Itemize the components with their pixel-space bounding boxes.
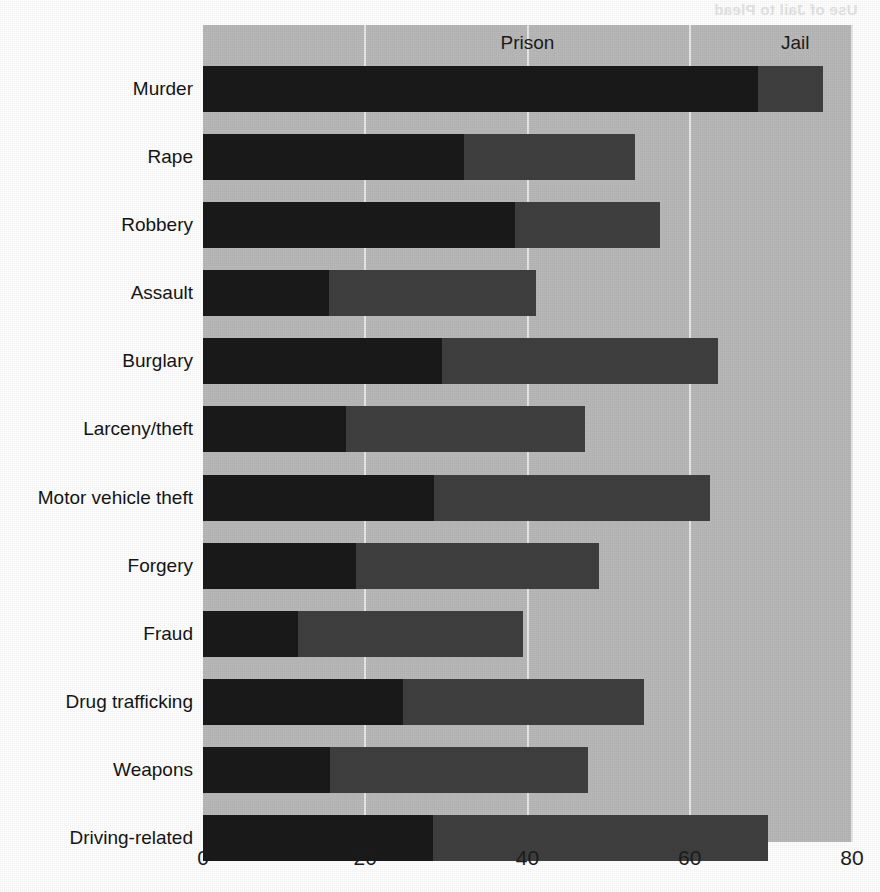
bar-segment-jail	[442, 338, 719, 384]
bar-segment-prison	[203, 270, 329, 316]
category-label: Driving-related	[0, 827, 193, 849]
bar-segment-prison	[203, 202, 515, 248]
category-label: Robbery	[0, 214, 193, 236]
x-tick-label: 0	[197, 846, 209, 870]
x-axis: 020406080	[203, 846, 852, 880]
bar-row	[203, 543, 852, 589]
bar-segment-prison	[203, 338, 442, 384]
bar-segment-prison	[203, 134, 464, 180]
bar-segment-jail	[403, 679, 643, 725]
bar-row	[203, 679, 852, 725]
bar-segment-jail	[464, 134, 635, 180]
bar-segment-prison	[203, 611, 298, 657]
bar-segment-jail	[346, 406, 585, 452]
bar-row	[203, 338, 852, 384]
bar-segment-prison	[203, 747, 330, 793]
x-tick-label: 20	[354, 846, 377, 870]
bar-segment-jail	[434, 475, 710, 521]
category-label: Larceny/theft	[0, 418, 193, 440]
bar-row	[203, 475, 852, 521]
category-label: Assault	[0, 282, 193, 304]
x-tick-label: 40	[516, 846, 539, 870]
series-label-jail: Jail	[781, 32, 810, 54]
category-label: Motor vehicle theft	[0, 487, 193, 509]
bar-row	[203, 134, 852, 180]
bar-segment-prison	[203, 475, 434, 521]
category-label: Murder	[0, 78, 193, 100]
category-label: Drug trafficking	[0, 691, 193, 713]
x-tick-label: 80	[840, 846, 863, 870]
bar-segment-jail	[330, 747, 588, 793]
bar-row	[203, 406, 852, 452]
bar-segment-prison	[203, 543, 356, 589]
bar-segment-prison	[203, 679, 403, 725]
bar-segment-jail	[758, 66, 823, 112]
bar-row	[203, 66, 852, 112]
stacked-bar-chart: PrisonJail MurderRapeRobberyAssaultBurgl…	[0, 0, 880, 892]
bar-row	[203, 202, 852, 248]
category-label: Weapons	[0, 759, 193, 781]
bar-segment-jail	[329, 270, 537, 316]
category-label: Forgery	[0, 555, 193, 577]
series-label-prison: Prison	[501, 32, 555, 54]
bar-row	[203, 270, 852, 316]
category-label: Burglary	[0, 350, 193, 372]
bar-row	[203, 747, 852, 793]
category-axis: MurderRapeRobberyAssaultBurglaryLarceny/…	[0, 25, 193, 842]
bar-segment-jail	[298, 611, 524, 657]
category-label: Rape	[0, 146, 193, 168]
bar-segment-prison	[203, 406, 346, 452]
bar-segment-jail	[515, 202, 659, 248]
category-label: Fraud	[0, 623, 193, 645]
x-tick-label: 60	[678, 846, 701, 870]
bar-segment-prison	[203, 66, 758, 112]
bar-segment-jail	[356, 543, 599, 589]
bar-row	[203, 611, 852, 657]
